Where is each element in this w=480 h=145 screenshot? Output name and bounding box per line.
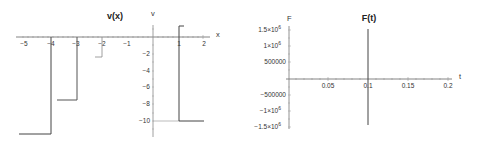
x-tick-label: 0.15 — [402, 82, 415, 89]
chart-title: F(t) — [362, 13, 377, 23]
x-axis-label: x — [216, 30, 220, 39]
y-axis-label: v — [151, 9, 155, 18]
x-tick-label: 0.05 — [322, 82, 335, 89]
x-tick-label: −5 — [20, 40, 28, 47]
v-of-x-plot: −5 −4 −3 −2 −1 1 2 −2 −4 −6 −8 −10 x v v… — [16, 9, 220, 137]
y-tick-label: 1×106 — [264, 40, 282, 49]
y-axis-minor-ticks — [288, 30, 291, 127]
y-tick-label: −4 — [143, 67, 151, 74]
y-tick-label: −10 — [139, 117, 150, 124]
chart-title: v(x) — [107, 11, 123, 21]
x-tick-label: 0.2 — [443, 82, 452, 89]
F-of-t-plot: 0.05 0.1 0.15 0.2 1.5×106 1×106 500000 −… — [254, 13, 462, 130]
y-tick-label: −1×106 — [260, 105, 281, 114]
y-axis-label: F — [287, 14, 292, 23]
y-tick-label: 1.5×106 — [258, 24, 281, 33]
y-tick-label: −2 — [143, 50, 151, 57]
y-tick-label: −8 — [143, 100, 151, 107]
y-tick-label: −1.5×106 — [254, 121, 281, 130]
y-tick-label: −6 — [143, 83, 151, 90]
x-tick-label: −3 — [72, 40, 80, 47]
x-tick-label: 2 — [202, 40, 206, 47]
y-tick-label: 500000 — [264, 58, 286, 65]
x-axis-label: t — [459, 72, 462, 81]
figure: −5 −4 −3 −2 −1 1 2 −2 −4 −6 −8 −10 x v v… — [0, 0, 480, 145]
x-tick-label: −1 — [123, 40, 131, 47]
series-step-minus4 — [19, 37, 51, 134]
y-tick-label: −500000 — [261, 91, 287, 98]
